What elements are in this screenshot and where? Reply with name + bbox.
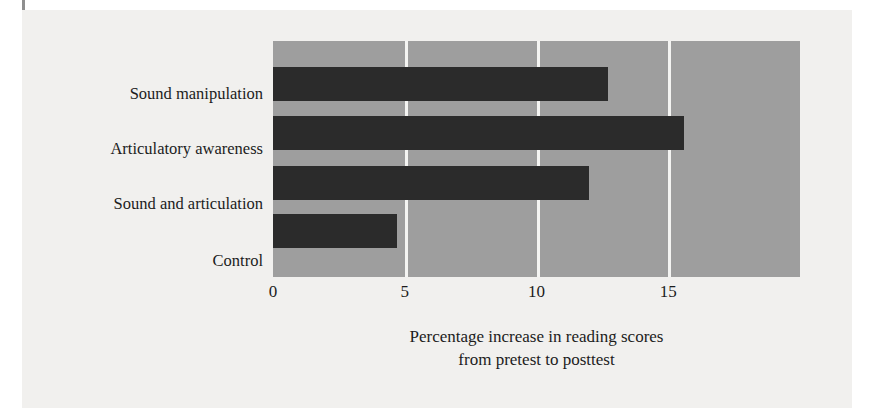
category-axis-labels: Sound manipulation Articulatory awarenes… [0, 41, 263, 277]
plot-area [273, 41, 800, 277]
category-label-sound-manipulation: Sound manipulation [3, 86, 263, 103]
xtick-label-10: 10 [528, 283, 545, 300]
bar-sound-manipulation [273, 67, 608, 101]
figure-bar-chart: Sound manipulation Articulatory awarenes… [0, 0, 874, 420]
bar-articulatory-awareness [273, 116, 684, 150]
x-axis-title-line-1: Percentage increase in reading scores [273, 326, 800, 349]
category-label-articulatory-awareness: Articulatory awareness [3, 141, 263, 158]
gridline-15 [668, 41, 671, 277]
category-label-control: Control [3, 253, 263, 270]
x-axis-title-line-2: from pretest to posttest [273, 349, 800, 372]
x-axis-tick-labels: 0 5 10 15 [273, 283, 800, 309]
xtick-label-5: 5 [401, 283, 410, 300]
xtick-label-0: 0 [269, 283, 278, 300]
xtick-label-15: 15 [660, 283, 677, 300]
x-axis-title: Percentage increase in reading scores fr… [273, 326, 800, 372]
category-label-sound-and-articulation: Sound and articulation [3, 196, 263, 213]
bar-sound-and-articulation [273, 166, 589, 200]
bar-control [273, 214, 397, 248]
